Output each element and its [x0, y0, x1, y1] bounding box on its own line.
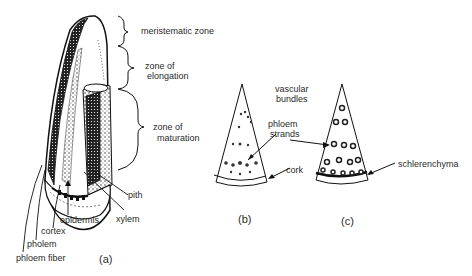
label-phloem: phloem	[268, 119, 298, 129]
label-zone-of-maturation-2: maturation	[157, 133, 200, 143]
label-zone-of-maturation-1: zone of	[153, 122, 183, 132]
label-cortex: cortex	[41, 226, 66, 236]
label-pith: pith	[128, 190, 143, 200]
caption-b: (b)	[238, 213, 251, 225]
label-zone-of-elongation-2: elongation	[147, 71, 189, 81]
label-meristematic-zone: meristematic zone	[141, 26, 214, 36]
plant-stem-diagram: meristematic zone zone of elongation zon…	[0, 0, 472, 276]
caption-a: (a)	[99, 253, 112, 265]
label-cork: cork	[286, 165, 303, 175]
diagram-drawing	[0, 0, 472, 276]
caption-c: (c)	[341, 215, 354, 227]
label-vascular: vascular	[275, 84, 309, 94]
label-bundles: bundles	[276, 94, 308, 104]
label-xylem: xylem	[116, 214, 140, 224]
label-phloem-fiber: phloem fiber	[16, 253, 66, 263]
label-schlerenchyma: schlerenchyma	[398, 159, 459, 169]
label-epidermis: epidermis	[60, 215, 99, 225]
label-zone-of-elongation-1: zone of	[145, 61, 175, 71]
label-strands: strands	[270, 129, 300, 139]
label-pholem: pholem	[27, 239, 57, 249]
